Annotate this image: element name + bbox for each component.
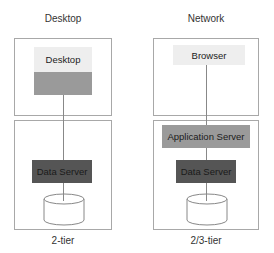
desktop-client-box: Desktop [34,47,92,72]
column-title-desktop: Desktop [14,13,112,24]
caption-2-tier: 2-tier [14,235,112,246]
desktop-logic-box [34,72,92,95]
database-cylinder-icon [186,193,228,227]
application-server-box: Application Server [162,125,250,148]
connector-line-left [63,95,64,203]
database-cylinder-icon [43,193,85,227]
browser-box: Browser [173,45,245,65]
data-server-box-left: Data Server [32,160,92,183]
data-server-box-right: Data Server [176,160,236,183]
caption-2-3-tier: 2/3-tier [153,235,259,246]
column-title-network: Network [153,13,259,24]
